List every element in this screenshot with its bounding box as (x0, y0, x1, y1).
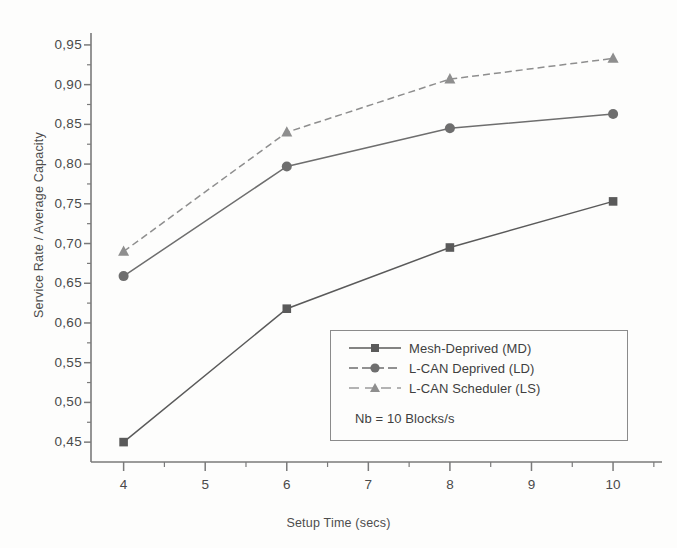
legend-marker-circle-icon (347, 359, 403, 377)
x-axis-title: Setup Time (secs) (0, 516, 677, 530)
legend-item-label: L-CAN Deprived (LD) (409, 361, 534, 376)
data-point-marker (282, 162, 292, 172)
legend-marker-triangle-icon (347, 379, 403, 397)
legend-item-label: L-CAN Scheduler (LS) (409, 381, 540, 396)
plot-area (0, 0, 677, 548)
data-point-marker (281, 126, 292, 136)
legend-item-label: Mesh-Deprived (MD) (409, 341, 531, 356)
data-point-marker (118, 246, 129, 256)
legend-item: L-CAN Deprived (LD) (331, 358, 627, 378)
data-point-marker (119, 271, 129, 281)
x-tick-label: 8 (435, 478, 465, 492)
data-point-marker (119, 438, 128, 447)
x-tick-label: 9 (516, 478, 546, 492)
x-tick-label: 5 (190, 478, 220, 492)
data-point-marker (446, 243, 455, 252)
x-tick-label: 7 (353, 478, 383, 492)
x-tick-label: 4 (109, 478, 139, 492)
legend-item: L-CAN Scheduler (LS) (331, 378, 627, 398)
legend-item: Mesh-Deprived (MD) (331, 338, 627, 358)
data-point-marker (609, 197, 618, 206)
data-point-marker (608, 109, 618, 119)
data-point-marker (608, 52, 619, 62)
chart-legend: Mesh-Deprived (MD) L-CAN Deprived (LD) L… (330, 330, 628, 441)
legend-note: Nb = 10 Blocks/s (331, 411, 627, 426)
data-point-marker (445, 123, 455, 133)
series-line (124, 114, 613, 276)
legend-marker-square-icon (347, 339, 403, 357)
x-tick-label: 6 (272, 478, 302, 492)
chart-figure: Service Rate / Average Capacity 0,450,50… (0, 0, 677, 548)
data-point-marker (283, 304, 292, 313)
x-axis-tick-labels: 45678910 (0, 478, 677, 498)
x-tick-label: 10 (598, 478, 628, 492)
